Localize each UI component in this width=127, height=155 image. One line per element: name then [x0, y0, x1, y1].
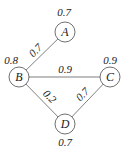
node-c-label: C — [106, 70, 115, 84]
node-b-label: B — [15, 70, 23, 84]
node-d: D — [55, 114, 75, 134]
node-a-label: A — [60, 25, 69, 39]
edge-weight-d-c: 0.7 — [73, 85, 92, 104]
graph-diagram: 0.7 0.9 0.2 0.7 A B C D 0.7 0.8 0.9 0.7 — [0, 0, 127, 155]
node-c: C — [100, 67, 120, 87]
node-a-weight: 0.7 — [57, 6, 71, 18]
node-a: A — [55, 22, 75, 42]
edge-weight-b-c: 0.9 — [58, 63, 72, 75]
edge-weight-a-b: 0.7 — [26, 41, 45, 60]
edge-weight-b-d: 0.2 — [41, 87, 60, 106]
node-c-weight: 0.9 — [103, 54, 117, 66]
node-b-weight: 0.8 — [4, 54, 18, 66]
node-b: B — [9, 67, 29, 87]
node-d-weight: 0.7 — [58, 136, 72, 148]
node-d-label: D — [60, 117, 70, 131]
